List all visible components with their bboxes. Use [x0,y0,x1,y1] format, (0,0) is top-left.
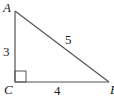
vertex-label-c: C [4,82,13,97]
side-label-ab: 5 [65,32,72,47]
side-ab [15,11,109,82]
side-label-cb: 4 [54,83,61,98]
vertex-label-a: A [2,0,11,15]
vertex-label-b: B [110,82,114,97]
right-angle-marker [15,71,26,82]
side-label-ac: 3 [3,44,10,59]
triangle-diagram: A C B 3 4 5 [0,0,114,98]
